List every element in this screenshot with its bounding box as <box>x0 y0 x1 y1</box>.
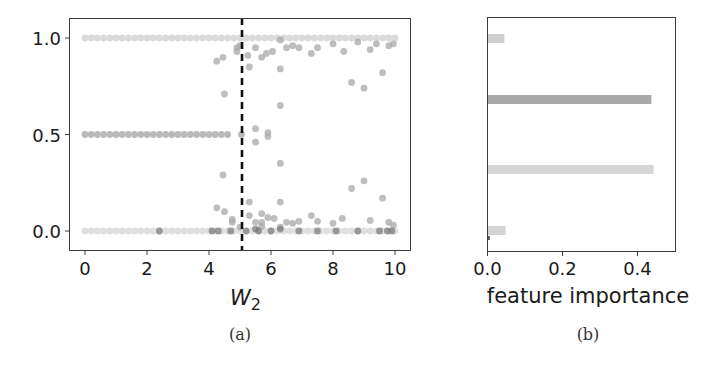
data-point <box>144 35 151 42</box>
data-point <box>255 35 262 42</box>
data-point <box>82 35 89 42</box>
data-point <box>367 228 374 235</box>
x-tick-label: 10 <box>384 258 407 279</box>
data-point <box>252 44 259 51</box>
data-point <box>221 208 228 215</box>
data-point <box>131 35 138 42</box>
data-point <box>230 35 237 42</box>
data-point <box>150 35 157 42</box>
data-point <box>271 215 278 222</box>
data-point <box>389 228 396 235</box>
x-axis-label-b: feature importance <box>487 284 689 308</box>
bar-feature-1 <box>488 34 504 43</box>
data-point <box>379 195 386 202</box>
data-point <box>348 228 355 235</box>
data-point <box>265 214 272 221</box>
data-point <box>330 220 337 227</box>
data-point <box>113 228 120 235</box>
data-point <box>220 54 227 61</box>
data-point <box>106 228 113 235</box>
data-point <box>261 35 268 42</box>
data-point <box>181 228 188 235</box>
data-point <box>162 228 169 235</box>
data-point <box>314 218 321 225</box>
data-point <box>168 131 175 138</box>
figure: 0246810 0.00.51.0 W2 (a) 0.00.20.4 featu… <box>0 0 725 367</box>
importance-bars <box>488 34 654 240</box>
data-point <box>168 228 175 235</box>
data-point <box>206 35 213 42</box>
data-point <box>314 44 321 51</box>
data-point <box>367 35 374 42</box>
data-point <box>255 228 262 235</box>
data-point <box>137 131 144 138</box>
data-point <box>187 131 194 138</box>
data-point <box>218 131 225 138</box>
data-point <box>348 79 355 86</box>
data-point <box>175 131 182 138</box>
x-tick-label: 0.2 <box>548 258 577 279</box>
data-point <box>354 228 361 235</box>
data-point <box>246 199 253 206</box>
data-point <box>314 228 321 235</box>
data-point <box>379 35 386 42</box>
data-point <box>162 131 169 138</box>
data-point <box>252 125 259 132</box>
data-point <box>373 40 380 47</box>
data-point <box>289 220 296 227</box>
data-point <box>94 228 101 235</box>
data-point <box>131 228 138 235</box>
data-point <box>333 228 340 235</box>
scatter-points <box>82 35 399 235</box>
data-point <box>305 35 312 42</box>
data-point <box>229 219 236 226</box>
y-tick-label: 0.5 <box>32 125 61 146</box>
data-point <box>94 35 101 42</box>
data-point <box>150 228 157 235</box>
data-point <box>212 131 219 138</box>
data-point <box>131 131 138 138</box>
data-point <box>299 35 306 42</box>
data-point <box>340 48 347 55</box>
data-point <box>308 212 315 219</box>
data-point <box>144 228 151 235</box>
data-point <box>249 35 256 42</box>
data-point <box>354 39 361 46</box>
data-point <box>215 228 222 235</box>
data-point <box>181 35 188 42</box>
data-point <box>156 131 163 138</box>
data-point <box>385 35 392 42</box>
data-point <box>125 131 132 138</box>
data-point <box>376 228 383 235</box>
data-point <box>268 228 275 235</box>
data-point <box>269 48 276 55</box>
data-point <box>367 217 374 224</box>
data-point <box>263 50 270 57</box>
data-point <box>283 44 290 51</box>
data-point <box>348 35 355 42</box>
data-point <box>367 46 374 53</box>
data-point <box>258 210 265 217</box>
data-point <box>137 228 144 235</box>
x-ticks-a: 0246810 <box>79 251 406 280</box>
x-ticks-b: 0.00.20.4 <box>473 252 652 280</box>
data-point <box>199 228 206 235</box>
tiny-dark-bar <box>488 236 490 240</box>
data-point <box>88 131 95 138</box>
data-point <box>199 131 206 138</box>
data-point <box>342 35 349 42</box>
data-point <box>206 131 213 138</box>
data-point <box>265 133 272 140</box>
data-point <box>193 35 200 42</box>
data-point <box>246 212 253 219</box>
data-point <box>390 40 397 47</box>
y-tick-label: 1.0 <box>32 28 61 49</box>
data-point <box>277 102 284 109</box>
data-point <box>296 44 303 51</box>
data-point <box>277 37 284 44</box>
data-point <box>119 228 126 235</box>
data-point <box>137 35 144 42</box>
data-point <box>100 131 107 138</box>
data-point <box>390 222 397 229</box>
data-point <box>361 35 368 42</box>
